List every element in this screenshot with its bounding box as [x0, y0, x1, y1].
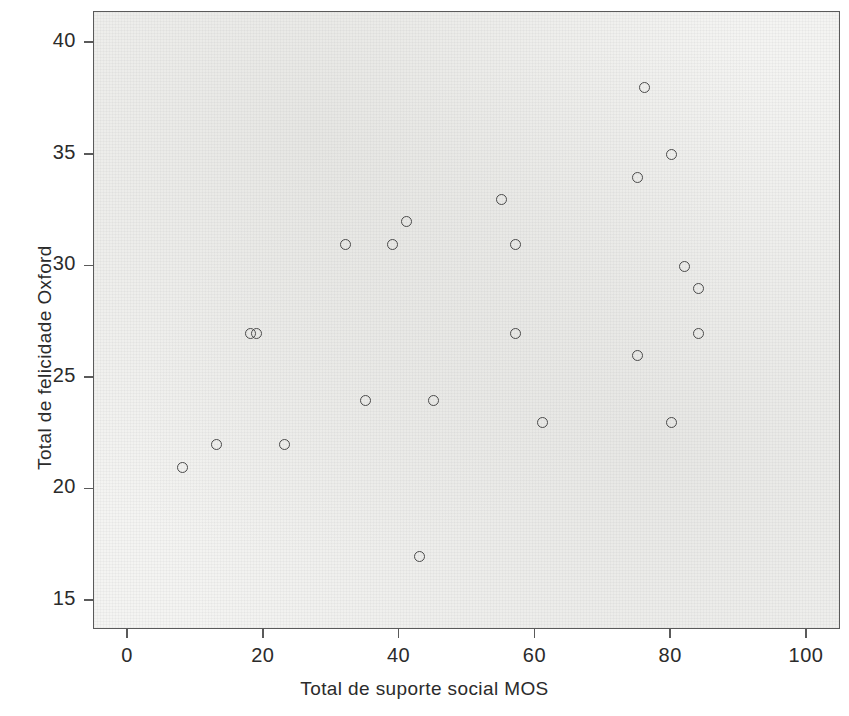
data-point [632, 350, 643, 361]
data-point [177, 462, 188, 473]
y-axis-tick [84, 265, 93, 267]
data-point [639, 82, 650, 93]
data-point [632, 172, 643, 183]
y-axis-tick-label: 40 [0, 29, 76, 52]
y-axis-tick [84, 488, 93, 490]
data-point [340, 239, 351, 250]
y-axis-tick [84, 153, 93, 155]
data-point [387, 239, 398, 250]
x-axis-tick [262, 629, 264, 638]
x-axis-tick-label: 0 [87, 644, 167, 667]
data-point [666, 417, 677, 428]
data-point [510, 328, 521, 339]
plot-panel [93, 11, 840, 629]
data-point [211, 439, 222, 450]
y-axis-tick [84, 376, 93, 378]
data-point [360, 395, 371, 406]
x-axis-tick [534, 629, 536, 638]
data-point [666, 149, 677, 160]
data-point [428, 395, 439, 406]
x-axis-title: Total de suporte social MOS [0, 678, 849, 700]
data-point [279, 439, 290, 450]
data-point [496, 194, 507, 205]
y-axis-tick-label: 20 [0, 475, 76, 498]
y-axis-title: Total de felicidade Oxford [34, 245, 56, 470]
data-point [537, 417, 548, 428]
y-axis-tick [84, 599, 93, 601]
data-point [693, 328, 704, 339]
scatter-plot-figure: 020406080100152025303540 Total de suport… [0, 0, 849, 716]
x-axis-tick-label: 100 [766, 644, 846, 667]
data-point [693, 283, 704, 294]
y-axis-tick [84, 41, 93, 43]
x-axis-tick [805, 629, 807, 638]
x-axis-tick [669, 629, 671, 638]
x-axis-tick-label: 40 [359, 644, 439, 667]
data-point [510, 239, 521, 250]
y-axis-tick-label: 15 [0, 587, 76, 610]
x-axis-tick [398, 629, 400, 638]
data-point [679, 261, 690, 272]
paper-grain-texture [94, 12, 839, 628]
data-point [401, 216, 412, 227]
y-axis-tick-label: 35 [0, 141, 76, 164]
x-axis-tick [126, 629, 128, 638]
x-axis-tick-label: 20 [223, 644, 303, 667]
data-point [414, 551, 425, 562]
data-point [251, 328, 262, 339]
x-axis-tick-label: 60 [494, 644, 574, 667]
x-axis-tick-label: 80 [630, 644, 710, 667]
